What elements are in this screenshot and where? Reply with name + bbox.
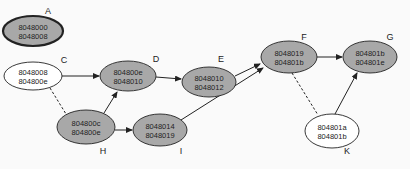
node-start-address: 8048008	[18, 68, 47, 77]
node-f: 8048019804801bF	[261, 32, 317, 73]
node-end-address: 804800e	[71, 128, 100, 137]
node-a: 80480008048008A	[3, 6, 63, 46]
node-start-address: 8048019	[274, 49, 303, 58]
node-end-address: 8048012	[194, 83, 223, 92]
node-label: H	[100, 146, 107, 156]
edge-c-h	[50, 88, 66, 114]
node-label: F	[301, 32, 307, 42]
node-start-address: 8048000	[18, 23, 47, 32]
edge-f-k	[292, 73, 318, 115]
node-start-address: 804801b	[355, 49, 384, 58]
node-end-address: 804800e	[18, 77, 47, 86]
edge-e-f	[235, 64, 260, 76]
node-start-address: 804800e	[113, 68, 142, 77]
node-label: D	[153, 54, 160, 64]
node-label: E	[218, 54, 224, 64]
edge-h-d	[104, 92, 117, 113]
node-i: 80480148048019I	[133, 114, 187, 156]
node-label: K	[344, 146, 350, 156]
control-flow-graph: 80480008048008A8048008804800eC804800e804…	[0, 0, 410, 169]
node-start-address: 8048010	[194, 74, 223, 83]
node-g: 804801b804801eG	[343, 32, 397, 73]
nodes-layer: 80480008048008A8048008804800eC804800e804…	[3, 6, 397, 156]
node-label: A	[45, 6, 51, 16]
edge-d-e	[156, 77, 181, 79]
node-c: 8048008804800eC	[4, 55, 68, 90]
node-end-address: 8048010	[113, 77, 142, 86]
node-start-address: 8048014	[145, 122, 174, 131]
node-label: C	[61, 55, 68, 65]
node-h: 804800c804800eH	[57, 110, 115, 156]
node-end-address: 8048019	[145, 131, 174, 140]
node-start-address: 804801a	[317, 123, 347, 132]
node-k: 804801a804801bK	[305, 114, 359, 156]
node-end-address: 804801e	[355, 58, 384, 67]
node-label: G	[386, 32, 393, 42]
node-label: I	[180, 146, 183, 156]
node-end-address: 804801b	[317, 132, 346, 141]
node-end-address: 804801b	[274, 58, 303, 67]
edge-k-g	[335, 73, 357, 114]
node-d: 804800e8048010D	[100, 54, 160, 91]
node-start-address: 804800c	[72, 119, 101, 128]
node-e: 80480108048012E	[182, 54, 236, 97]
node-end-address: 8048008	[18, 32, 47, 41]
